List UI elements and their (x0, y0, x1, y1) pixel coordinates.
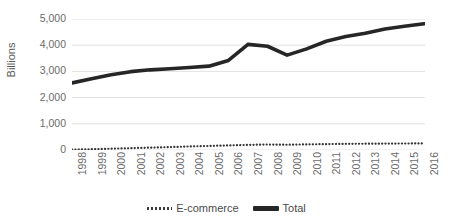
x-axis-tick-label: 2005 (213, 152, 225, 192)
x-axis-tick-label: 2007 (252, 152, 264, 192)
y-axis-tick-label: 4,000 (8, 38, 66, 50)
chart-legend: E-commerce Total (0, 198, 452, 218)
x-axis-tick-label: 1998 (76, 152, 88, 192)
x-axis-tick-label: 2012 (350, 152, 362, 192)
x-axis-tick-label: 2002 (154, 152, 166, 192)
x-axis-tick-label: 2014 (389, 152, 401, 192)
x-axis-tick-label: 2000 (115, 152, 127, 192)
y-axis-tick-label: 3,000 (8, 64, 66, 76)
y-axis-tick-label: 0 (8, 143, 66, 155)
chart-container: Billions 01,0002,0003,0004,0005,000 1998… (0, 0, 452, 224)
solid-line-icon (253, 206, 279, 211)
x-axis-tick-label: 2011 (330, 152, 342, 192)
x-axis-tick-labels: 1998199920002001200220032004200520062007… (72, 152, 425, 192)
x-axis-tick-label: 2001 (135, 152, 147, 192)
plot-area (72, 19, 425, 150)
x-axis-tick-label: 2003 (174, 152, 186, 192)
legend-item-ecommerce[interactable]: E-commerce (146, 202, 238, 214)
y-axis-tick-label: 1,000 (8, 117, 66, 129)
y-axis-tick-labels: 01,0002,0003,0004,0005,000 (8, 0, 66, 224)
x-axis-tick-label: 1999 (96, 152, 108, 192)
x-axis-tick-label: 2009 (291, 152, 303, 192)
series-line-total (72, 24, 424, 83)
legend-label-total: Total (283, 202, 306, 214)
y-axis-tick-label: 5,000 (8, 12, 66, 24)
legend-item-total[interactable]: Total (253, 202, 306, 214)
x-axis-tick-label: 2006 (232, 152, 244, 192)
x-axis-tick-label: 2013 (369, 152, 381, 192)
x-axis-tick-label: 2008 (272, 152, 284, 192)
y-axis-tick-label: 2,000 (8, 91, 66, 103)
legend-label-ecommerce: E-commerce (176, 202, 238, 214)
x-axis-tick-label: 2004 (193, 152, 205, 192)
x-axis-tick-label: 2016 (428, 152, 440, 192)
series-line-e-commerce (72, 143, 424, 149)
x-axis-tick-label: 2010 (311, 152, 323, 192)
x-axis-tick-label: 2015 (408, 152, 420, 192)
dotted-line-icon (146, 207, 172, 210)
plot-svg (72, 19, 425, 150)
